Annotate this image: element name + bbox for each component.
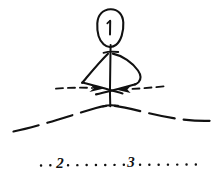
ground-arc-group: [14, 105, 211, 131]
left-convergent-arrow-shaft: [56, 88, 92, 89]
dotted-reference-line-group: 2 3: [41, 154, 196, 171]
vertical-axis-group: [110, 45, 111, 106]
vertical-axis-line: [110, 45, 111, 106]
canopy-left-edge: [82, 54, 108, 83]
right-convergent-arrow-shaft: [131, 86, 164, 89]
baseline-label-3: 3: [126, 154, 135, 170]
ellipse-callout-numeral-group: [107, 21, 110, 35]
dashed-ground-arc: [14, 106, 211, 132]
figure-canvas: 1: [0, 0, 222, 177]
canopy-right-edge: [113, 54, 141, 85]
ellipse-callout-group: 1: [97, 9, 123, 47]
baseline-label-2: 2: [55, 155, 64, 171]
diagram-svg: 1: [0, 0, 222, 177]
canopy-base-right: [96, 84, 136, 94]
